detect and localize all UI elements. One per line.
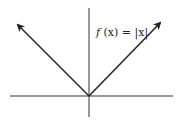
abs-value-graph <box>0 0 183 124</box>
left-branch <box>18 25 89 96</box>
function-expression: (x) = |x| <box>100 26 148 39</box>
function-label: f (x) = |x| <box>96 26 148 39</box>
